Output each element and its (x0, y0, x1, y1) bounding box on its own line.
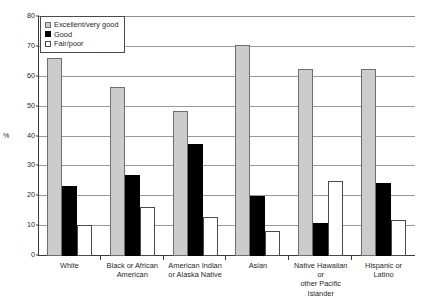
y-axis-tick-label: 30 (27, 162, 35, 169)
category-label-line: Latino (353, 270, 414, 279)
bar-group (289, 16, 352, 256)
y-axis-tick-label: 0 (31, 251, 35, 258)
bar (298, 69, 313, 257)
bar (313, 223, 328, 256)
x-axis-category-label: American Indianor Alaska Native (164, 261, 227, 298)
x-axis-category-label: Asian (226, 261, 289, 298)
x-axis-category-labels: WhiteBlack or AfricanAmericanAmerican In… (38, 261, 415, 298)
category-label-line: Native Hawaiian or (290, 261, 351, 279)
y-axis-tick-label: 70 (27, 42, 35, 49)
category-label-line: Black or African (102, 261, 163, 270)
y-axis-tick-label: 80 (27, 12, 35, 19)
x-axis-category-label: White (38, 261, 101, 298)
x-axis-tick-mark (288, 256, 289, 260)
bar (250, 196, 265, 256)
bar (376, 183, 391, 257)
legend-item-label: Fair/poor (54, 40, 84, 47)
legend-item-label: Good (54, 31, 72, 38)
bar (62, 186, 77, 257)
legend-swatch-icon (45, 31, 51, 37)
bar (77, 225, 92, 257)
x-axis-category-label: Black or AfricanAmerican (101, 261, 164, 298)
bar-group (164, 16, 227, 256)
bar (235, 45, 250, 257)
category-label-line: White (39, 261, 100, 270)
y-axis-tick-label: 10 (27, 222, 35, 229)
legend-item: Fair/poor (45, 39, 119, 49)
bar (391, 220, 406, 256)
bar (47, 58, 62, 256)
y-axis-tick-label: 60 (27, 72, 35, 79)
bar (361, 69, 376, 257)
x-axis-category-label: Native Hawaiian orother Pacific Islander (289, 261, 352, 298)
bar (328, 181, 343, 256)
bar (110, 87, 125, 257)
category-label-line: other Pacific Islander (290, 279, 351, 297)
bar (125, 175, 140, 256)
x-axis-tick-mark (351, 256, 352, 260)
bar (140, 207, 155, 257)
y-axis-tick-label: 50 (27, 102, 35, 109)
category-label-line: or Alaska Native (165, 270, 226, 279)
x-axis-tick-mark (225, 256, 226, 260)
y-axis-tick-label: 40 (27, 132, 35, 139)
bar (203, 217, 218, 256)
bar (265, 231, 280, 257)
category-label-line: American (102, 270, 163, 279)
x-axis-category-label: Hispanic orLatino (352, 261, 415, 298)
legend-swatch-icon (45, 41, 51, 47)
legend-item-label: Excellent/very good (54, 21, 119, 28)
bar-group (352, 16, 415, 256)
y-axis-title: % (3, 132, 9, 139)
x-axis-tick-mark (100, 256, 101, 260)
legend-item: Good (45, 30, 119, 40)
category-label-line: American Indian (165, 261, 226, 270)
chart-legend: Excellent/very goodGoodFair/poor (40, 16, 125, 53)
legend-swatch-icon (45, 22, 51, 28)
bar (173, 111, 188, 257)
bar (188, 144, 203, 257)
x-axis-tick-mark (163, 256, 164, 260)
category-label-line: Hispanic or (353, 261, 414, 270)
y-axis-tick-label: 20 (27, 192, 35, 199)
legend-item: Excellent/very good (45, 20, 119, 30)
bar-group (226, 16, 289, 256)
category-label-line: Asian (227, 261, 288, 270)
